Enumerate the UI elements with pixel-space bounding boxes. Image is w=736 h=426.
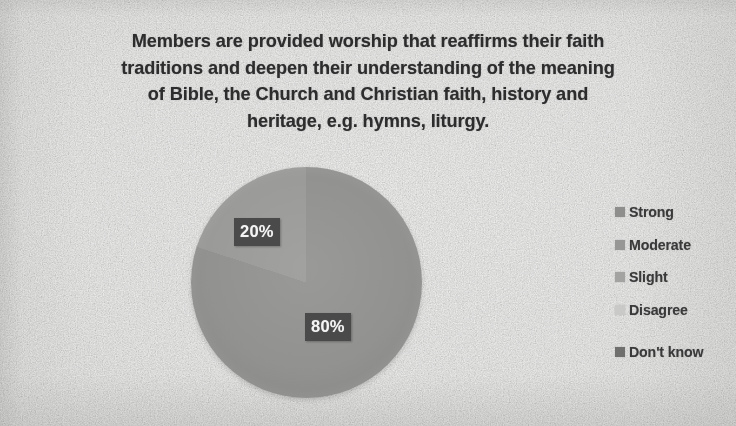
legend-label-disagree: Disagree (629, 302, 688, 318)
legend-item-moderate: Moderate (615, 229, 733, 262)
legend-swatch-moderate (615, 240, 625, 250)
chart-title-line-4: heritage, e.g. hymns, liturgy. (54, 108, 682, 135)
chart-title-line-2: traditions and deepen their understandin… (54, 55, 682, 82)
chart-title-line-3: of Bible, the Church and Christian faith… (54, 81, 682, 108)
legend-label-moderate: Moderate (629, 237, 691, 253)
legend-item-disagree: Disagree (615, 294, 733, 327)
legend-swatch-strong (615, 207, 625, 217)
legend-label-dont-know: Don't know (629, 344, 703, 360)
legend-item-slight: Slight (615, 261, 733, 294)
legend-swatch-slight (615, 272, 625, 282)
chart-title: Members are provided worship that reaffi… (54, 28, 682, 134)
chart-title-line-1: Members are provided worship that reaffi… (54, 28, 682, 55)
legend-item-dont-know: Don't know (615, 336, 733, 369)
legend-swatch-dont-know (615, 347, 625, 357)
pie-slice-label-strong: 80% (305, 313, 351, 341)
legend-swatch-disagree (615, 305, 625, 315)
pie-chart: 20% 80% (191, 167, 422, 398)
legend-item-strong: Strong (615, 196, 733, 229)
pie-slices (191, 167, 422, 398)
chart-page: Members are provided worship that reaffi… (0, 0, 736, 426)
chart-legend: Strong Moderate Slight Disagree Don't kn… (615, 196, 733, 369)
pie-slice-label-moderate: 20% (234, 218, 280, 246)
legend-label-slight: Slight (629, 269, 668, 285)
legend-label-strong: Strong (629, 204, 674, 220)
